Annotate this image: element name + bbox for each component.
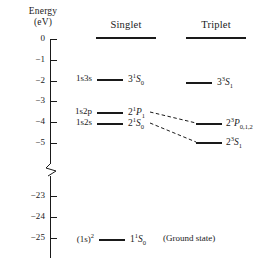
term-label-2-3s-1: 23S1 <box>226 135 242 149</box>
tick-label-minus-1: −1 <box>14 54 45 64</box>
tick-label-minus-23: −23 <box>10 190 45 200</box>
tick-mark-minus-5 <box>50 143 57 144</box>
column-header-singlet: Singlet <box>96 19 156 30</box>
column-header-triplet: Triplet <box>186 19 246 30</box>
term-j: 0,1,2 <box>240 123 253 130</box>
term-label-2-1s-0: 21S0 <box>128 116 144 130</box>
connector-s-singlet-to-triplet <box>150 123 196 142</box>
tick-label-minus-2: −2 <box>14 75 45 85</box>
config-text-ground: (1s) <box>77 234 91 244</box>
level-line-triplet-2p <box>196 123 222 125</box>
config-sup-ground: 2 <box>91 232 94 239</box>
axis-title-line1: Energy <box>29 6 57 16</box>
term-j: 0 <box>141 79 144 86</box>
tick-label-minus-3: −3 <box>14 95 45 105</box>
tick-mark-minus-3 <box>50 101 57 102</box>
term-label-3-3s-1: 33S1 <box>217 75 233 89</box>
level-line-ground <box>99 239 125 241</box>
tick-mark-minus-24 <box>50 217 57 218</box>
config-label-1s2s: 1s2s <box>50 117 92 127</box>
helium-energy-level-diagram: Energy (eV) Singlet Triplet 0 −1 −2 −3 −… <box>0 0 263 271</box>
column-rule-singlet <box>96 37 156 39</box>
tick-mark-minus-1 <box>50 60 57 61</box>
term-label-3-1s-0: 31S0 <box>128 72 144 86</box>
level-line-singlet-2s <box>97 123 123 125</box>
config-text-1s2s: 1s2s <box>76 117 92 127</box>
tick-label-0: 0 <box>14 33 45 43</box>
level-line-triplet-3s <box>186 82 212 84</box>
term-label-2-3p-012: 23P0,1,2 <box>226 116 253 130</box>
term-label-1-1s-0: 11S0 <box>130 232 146 246</box>
connector-p-singlet-to-triplet <box>150 112 196 123</box>
tick-mark-minus-23 <box>50 196 57 197</box>
config-label-1s2p: 1s2p <box>50 106 92 116</box>
tick-label-minus-4: −4 <box>14 116 45 126</box>
config-text-1s2p: 1s2p <box>75 106 92 116</box>
tick-mark-0 <box>50 39 57 40</box>
ground-state-note: (Ground state) <box>163 233 215 243</box>
level-line-singlet-3s <box>97 79 123 81</box>
config-label-ground: (1s)2 <box>56 232 94 244</box>
term-j: 0 <box>143 239 146 246</box>
term-j: 1 <box>230 82 233 89</box>
axis-title-line2: (eV) <box>34 17 52 27</box>
column-rule-triplet <box>186 37 246 39</box>
axis-title-energy: Energy (eV) <box>14 6 72 27</box>
level-line-singlet-2p <box>97 112 123 114</box>
config-label-1s3s: 1s3s <box>54 73 92 83</box>
tick-label-minus-25: −25 <box>10 232 45 242</box>
tick-label-minus-5: −5 <box>14 137 45 147</box>
term-j: 1 <box>239 142 242 149</box>
term-j: 0 <box>141 123 144 130</box>
config-text-1s3s: 1s3s <box>76 73 92 83</box>
tick-label-minus-24: −24 <box>10 211 45 221</box>
level-line-triplet-2s <box>196 142 222 144</box>
